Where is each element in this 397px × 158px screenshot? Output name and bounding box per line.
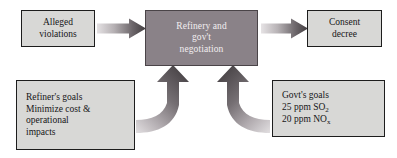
node-negotiation-line-3: negotiation xyxy=(150,44,253,56)
node-negotiation[interactable]: Refinery and gov't negotiation xyxy=(145,10,258,66)
arrow-negotiation-to-decree-shape xyxy=(261,19,308,39)
node-negotiation-line-2: gov't xyxy=(150,32,253,44)
node-govt-goals-line-2-base: 25 ppm SO xyxy=(282,102,325,112)
arrow-refiner-goals-to-negotiation-shape xyxy=(136,65,189,133)
node-refiner-goals-line-2: Minimize cost & xyxy=(26,104,134,116)
node-govt-goals-line-3-base: 20 ppm NO xyxy=(282,114,327,124)
node-consent-decree-line-1: Consent xyxy=(308,17,381,29)
arrow-govt-goals-to-negotiation-shape xyxy=(217,65,270,133)
flowchart-diagram: Alleged violations Refinery and gov't ne… xyxy=(0,0,397,158)
node-consent-decree[interactable]: Consent decree xyxy=(307,10,382,47)
node-refiner-goals-line-1: Refiner's goals xyxy=(26,92,134,104)
node-govt-goals-line-1: Govt's goals xyxy=(282,90,384,102)
node-govt-goals[interactable]: Govt's goals 25 ppm SO2 20 ppm NOx xyxy=(272,80,385,137)
node-consent-decree-line-2: decree xyxy=(308,29,381,41)
arrow-violations-to-negotiation-shape xyxy=(97,19,146,39)
node-alleged-violations-line-1: Alleged xyxy=(22,17,94,29)
node-refiner-goals-line-3: operational xyxy=(26,115,134,127)
node-alleged-violations-line-2: violations xyxy=(22,29,94,41)
node-refiner-goals[interactable]: Refiner's goals Minimize cost & operatio… xyxy=(16,80,135,150)
node-govt-goals-line-3-subscript: x xyxy=(327,118,331,126)
node-refiner-goals-line-4: impacts xyxy=(26,127,134,139)
node-govt-goals-line-3: 20 ppm NOx xyxy=(282,114,384,127)
node-negotiation-line-1: Refinery and xyxy=(150,21,253,33)
node-govt-goals-line-2-subscript: 2 xyxy=(325,106,329,114)
node-alleged-violations[interactable]: Alleged violations xyxy=(21,10,95,47)
node-govt-goals-line-2: 25 ppm SO2 xyxy=(282,102,384,115)
